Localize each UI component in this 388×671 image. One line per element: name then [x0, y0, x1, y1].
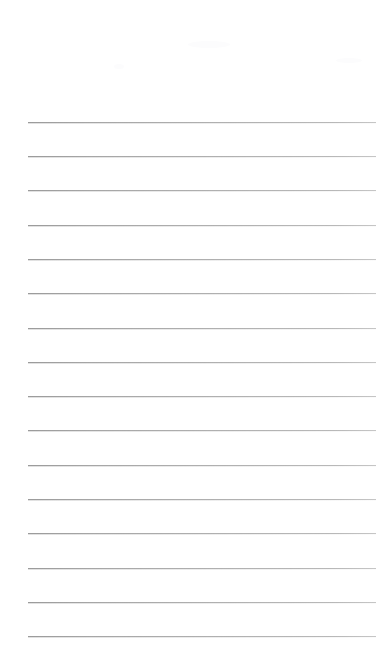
rule-line	[28, 156, 376, 157]
rule-line	[28, 499, 376, 500]
rule-line	[28, 533, 376, 534]
rule-line	[28, 293, 376, 294]
rule-line	[28, 568, 376, 569]
rule-line	[28, 190, 376, 191]
rule-line	[28, 225, 376, 226]
ruled-lines-container	[0, 0, 388, 671]
rule-line	[28, 465, 376, 466]
notepad-page	[0, 0, 388, 671]
rule-line	[28, 362, 376, 363]
rule-line	[28, 328, 376, 329]
rule-line	[28, 396, 376, 397]
rule-line	[28, 259, 376, 260]
rule-line	[28, 122, 376, 123]
rule-line	[28, 636, 376, 637]
rule-line	[28, 430, 376, 431]
rule-line	[28, 602, 376, 603]
